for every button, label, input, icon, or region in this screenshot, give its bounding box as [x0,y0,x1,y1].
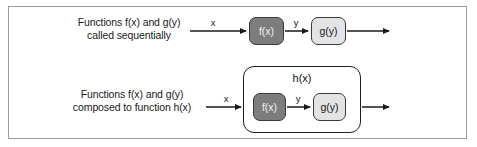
caption-composed-line-2: composed to function h(x) [62,101,202,114]
caption-composed-line-1: Functions f(x) and g(y) [62,88,202,101]
node-fx-composed[interactable]: f(x) [253,93,286,121]
caption-sequential-line-1: Functions f(x) and g(y) [74,16,184,29]
caption-sequential-line-2: called sequentially [74,29,184,42]
caption-composed: Functions f(x) and g(y) composed to func… [62,88,202,113]
function-composition-diagram: Functions f(x) and g(y) called sequentia… [0,0,477,147]
node-fx-sequential[interactable]: f(x) [249,17,284,45]
edge-label-input-top: x [206,17,220,28]
node-gy-composed[interactable]: g(y) [313,93,346,121]
edge-label-middle-top: y [289,17,303,28]
caption-sequential: Functions f(x) and g(y) called sequentia… [74,16,184,41]
container-label-hx: h(x) [272,72,332,84]
arrow-layer [0,0,477,147]
node-gy-sequential[interactable]: g(y) [311,17,346,45]
edge-label-input-bottom: x [219,93,233,104]
